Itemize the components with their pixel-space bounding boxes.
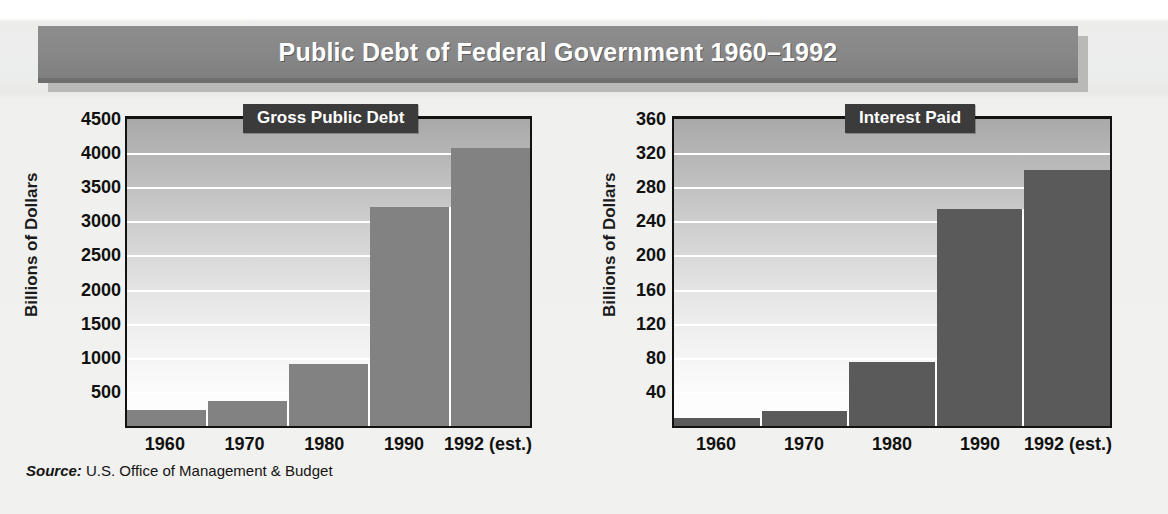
y-axis-tick-label: 2500: [81, 246, 121, 264]
title-banner: Public Debt of Federal Government 1960–1…: [38, 26, 1084, 88]
y-axis-tick-label: 3000: [81, 212, 121, 230]
x-axis-label: 1960: [125, 434, 205, 455]
x-axis-labels-left: 19601970198019901992 (est.): [125, 434, 532, 455]
bar-1960: [674, 418, 762, 426]
x-axis-label: 1970: [205, 434, 285, 455]
y-axis-tick-label: 120: [636, 315, 666, 333]
y-axis-tick-label: 200: [636, 246, 666, 264]
x-axis-label: 1990: [364, 434, 444, 455]
x-axis-label: 1992 (est.): [444, 434, 532, 455]
y-axis-tick-label: 500: [91, 383, 121, 401]
chart-title-badge-right: Interest Paid: [845, 104, 975, 133]
y-axis-tick-label: 80: [646, 349, 666, 367]
y-axis-title-left: Billions of Dollars: [22, 130, 42, 360]
plot-area-interest-paid: [672, 116, 1112, 428]
plot-area-gross-public-debt: [125, 116, 532, 428]
y-axis-tick-label: 320: [636, 144, 666, 162]
x-axis-label: 1980: [848, 434, 936, 455]
bar-series-interest-paid: [674, 119, 1110, 426]
y-axis-tick-label: 3500: [81, 178, 121, 196]
bar-1990: [937, 209, 1025, 426]
y-axis-ticks-right: 3603202802402001601208040: [600, 0, 666, 460]
bar-1992-est-: [451, 148, 530, 426]
x-axis-labels-right: 19601970198019901992 (est.): [672, 434, 1112, 455]
y-axis-tick-label: 2000: [81, 281, 121, 299]
source-text: U.S. Office of Management & Budget: [82, 462, 333, 479]
source-note: Source: U.S. Office of Management & Budg…: [26, 462, 333, 479]
x-axis-label: 1980: [284, 434, 364, 455]
bar-1970: [208, 401, 289, 426]
y-axis-tick-label: 280: [636, 178, 666, 196]
source-label: Source:: [26, 462, 82, 479]
bar-1960: [127, 410, 208, 426]
y-axis-tick-label: 4000: [81, 144, 121, 162]
y-axis-tick-label: 240: [636, 212, 666, 230]
y-axis-tick-label: 1500: [81, 315, 121, 333]
x-axis-label: 1990: [936, 434, 1024, 455]
y-axis-tick-label: 160: [636, 281, 666, 299]
x-axis-label: 1992 (est.): [1024, 434, 1112, 455]
y-axis-tick-label: 40: [646, 383, 666, 401]
chart-title-badge-left: Gross Public Debt: [243, 104, 418, 133]
bar-1980: [849, 362, 937, 426]
y-axis-tick-label: 1000: [81, 349, 121, 367]
y-axis-tick-label: 4500: [81, 110, 121, 128]
banner-bar: Public Debt of Federal Government 1960–1…: [38, 26, 1078, 83]
bar-series-gross-public-debt: [127, 119, 530, 426]
x-axis-label: 1970: [760, 434, 848, 455]
y-axis-ticks-left: 45004000350030002500200015001000500: [55, 0, 121, 460]
bar-1992-est-: [1024, 170, 1110, 426]
bar-1980: [289, 364, 370, 426]
x-axis-label: 1960: [672, 434, 760, 455]
bar-1970: [762, 411, 850, 426]
page-title: Public Debt of Federal Government 1960–1…: [279, 38, 838, 67]
bar-1990: [370, 207, 451, 426]
y-axis-tick-label: 360: [636, 110, 666, 128]
